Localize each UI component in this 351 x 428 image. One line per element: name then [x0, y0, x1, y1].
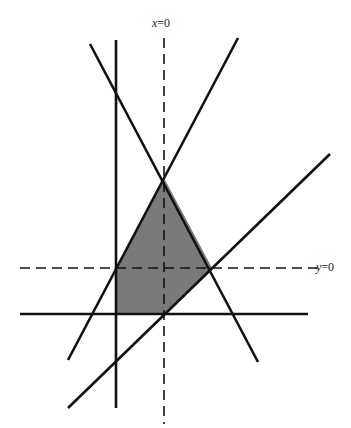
x-equals-text: =0	[157, 16, 170, 30]
y-equals-zero-label: y=0	[316, 260, 334, 275]
x-equals-zero-label: x=0	[152, 16, 170, 31]
ascending-constraint-shallow-line	[68, 154, 330, 408]
feasible-region-diagram	[0, 0, 351, 428]
y-equals-text: =0	[321, 260, 334, 274]
